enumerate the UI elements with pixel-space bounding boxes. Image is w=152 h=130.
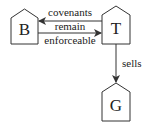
- node-g[interactable]: G: [102, 83, 130, 121]
- edge-label-sells: sells: [122, 57, 142, 69]
- diagram-canvas: B T G covenants remain enforceable sells: [0, 0, 152, 130]
- node-g-label: G: [110, 96, 122, 115]
- edge-label-remain: remain: [55, 20, 86, 32]
- node-t-label: T: [111, 19, 122, 38]
- node-b-label: B: [19, 20, 30, 39]
- edge-b-to-t: remain enforceable: [38, 20, 101, 46]
- node-t[interactable]: T: [102, 6, 130, 44]
- node-b[interactable]: B: [11, 9, 38, 44]
- edge-t-to-g: sells: [116, 44, 142, 82]
- edge-label-enforceable: enforceable: [44, 34, 95, 46]
- edge-label-covenants: covenants: [48, 6, 92, 18]
- edge-t-to-b: covenants: [39, 6, 102, 21]
